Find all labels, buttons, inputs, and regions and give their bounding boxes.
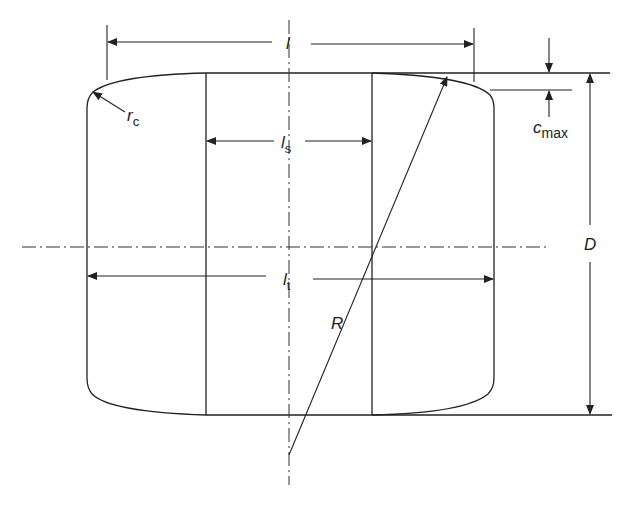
label-rc: rc bbox=[127, 106, 140, 129]
label-D: D bbox=[584, 235, 596, 254]
label-ls: ls bbox=[281, 133, 292, 156]
label-lt: lt bbox=[283, 270, 291, 293]
label-l: l bbox=[286, 34, 291, 53]
crowned-roller-diagram: l ls lt rc cmax D R bbox=[0, 0, 628, 507]
label-cmax: cmax bbox=[533, 118, 568, 141]
R-radius-line bbox=[289, 77, 447, 455]
label-R: R bbox=[331, 314, 343, 333]
rc-leader-arrow bbox=[93, 92, 125, 112]
roller-outline bbox=[87, 73, 494, 415]
